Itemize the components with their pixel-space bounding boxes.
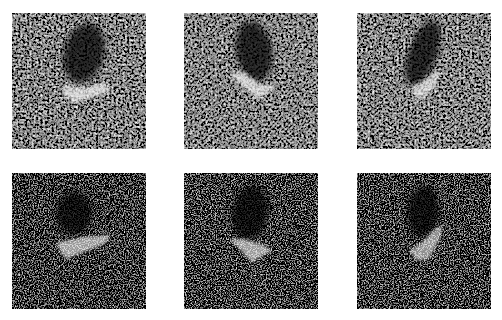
image-panel-r1c3 xyxy=(357,13,491,149)
image-panel-r2c3 xyxy=(357,173,491,309)
image-panel-r2c1 xyxy=(12,173,146,309)
speckle-image xyxy=(184,13,318,149)
speckle-image xyxy=(12,13,146,149)
speckle-image xyxy=(12,173,146,309)
speckle-image xyxy=(184,173,318,309)
image-panel-r2c2 xyxy=(184,173,318,309)
image-panel-r1c2 xyxy=(184,13,318,149)
speckle-image xyxy=(357,173,491,309)
speckle-image xyxy=(357,13,491,149)
image-panel-r1c1 xyxy=(12,13,146,149)
